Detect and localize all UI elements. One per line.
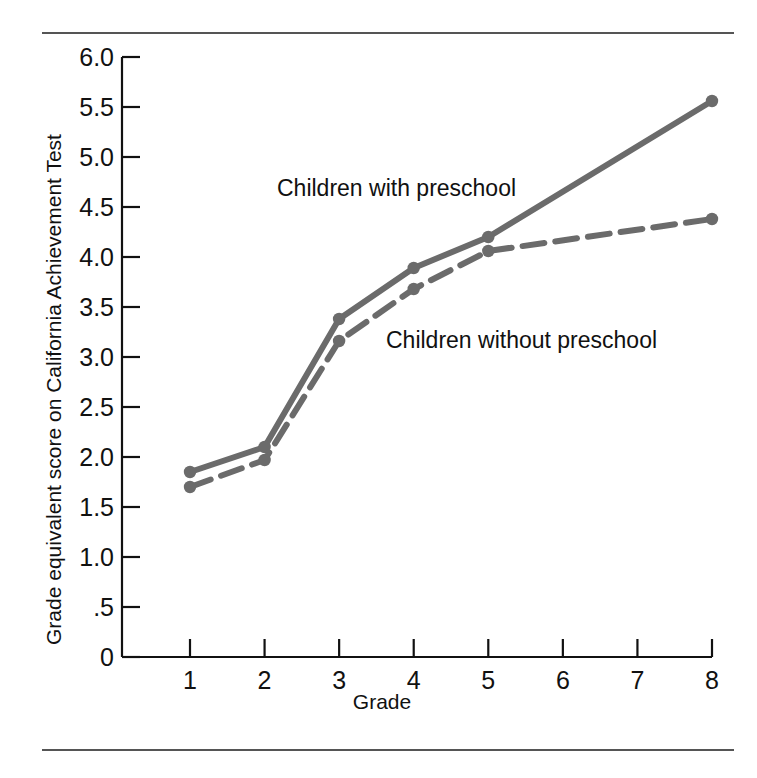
x-tick-label: 2 [245,666,285,695]
data-point-marker [408,262,420,274]
x-tick-label: 8 [692,666,732,695]
x-tick-label: 6 [543,666,583,695]
axes [122,57,712,657]
y-tick-label: 3.0 [50,343,114,372]
x-axis-ticks [190,639,712,657]
y-tick-label: 1.0 [50,543,114,572]
y-tick-label: 0 [50,643,114,672]
data-point-marker [482,245,494,257]
y-tick-label: 2.5 [50,393,114,422]
y-tick-label: 4.0 [50,243,114,272]
y-tick-label: 2.0 [50,443,114,472]
y-tick-label: 3.5 [50,293,114,322]
series-line-1 [190,101,712,472]
y-axis-ticks [122,57,140,657]
y-tick-label: .5 [50,593,114,622]
y-tick-label: 5.5 [50,93,114,122]
data-point-marker [333,313,345,325]
series-annotation-1: Children with preschool [277,175,516,202]
data-point-marker [706,95,718,107]
y-tick-label: 5.0 [50,143,114,172]
y-tick-label: 4.5 [50,193,114,222]
figure-container: Grade equivalent score on California Ach… [0,0,757,778]
x-tick-label: 7 [617,666,657,695]
x-tick-label: 5 [468,666,508,695]
data-series-group [184,95,718,493]
x-tick-label: 1 [170,666,210,695]
data-point-marker [184,466,196,478]
y-tick-label: 1.5 [50,493,114,522]
data-point-marker [184,481,196,493]
series-annotation-2: Children without preschool [386,327,657,354]
x-tick-label: 3 [319,666,359,695]
data-point-marker [408,283,420,295]
data-point-marker [333,335,345,347]
data-point-marker [258,454,270,466]
data-point-marker [706,213,718,225]
y-tick-label: 6.0 [50,43,114,72]
data-point-marker [482,231,494,243]
x-tick-label: 4 [394,666,434,695]
